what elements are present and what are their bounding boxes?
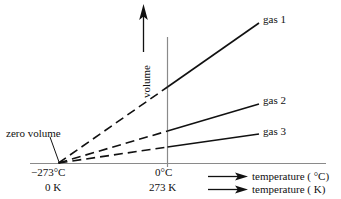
- volume-axis-arrow: [139, 4, 148, 52]
- gas2-dashed-segment: [59, 131, 168, 163]
- x-tick-label-0-kelvin: 0 K: [45, 182, 61, 193]
- zero-volume-leader-line: [50, 137, 59, 162]
- legend-label-celsius: temperature ( °C): [252, 171, 329, 182]
- gas2-solid-segment: [168, 104, 260, 131]
- series-label-gas2: gas 2: [263, 95, 286, 106]
- series-label-gas1: gas 1: [263, 14, 286, 25]
- gas1-solid-segment: [168, 23, 260, 87]
- x-tick-label-minus-273-celsius: −273°C: [31, 167, 65, 178]
- legend-arrow-celsius: [208, 173, 248, 181]
- gas3-dashed-segment: [59, 147, 168, 163]
- y-axis-label: volume: [141, 65, 152, 98]
- gas3-solid-segment: [168, 134, 260, 147]
- series-label-gas3: gas 3: [263, 126, 286, 137]
- gas1-dashed-segment: [59, 87, 168, 163]
- gas-volume-temperature-diagram: volume zero volume −273°C 0 K 0°C 273 K …: [0, 0, 341, 199]
- zero-volume-annotation: zero volume: [6, 128, 61, 139]
- x-tick-label-0-celsius: 0°C: [155, 167, 172, 178]
- legend-label-kelvin: temperature ( K): [252, 184, 325, 195]
- x-tick-label-273-kelvin: 273 K: [149, 182, 176, 193]
- legend-arrow-kelvin: [208, 186, 248, 194]
